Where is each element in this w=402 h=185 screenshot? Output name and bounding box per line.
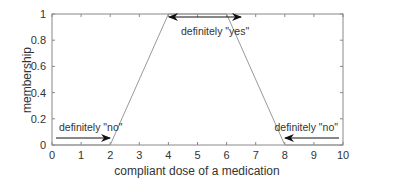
x-tick-label: 1 [78,149,84,161]
x-tick-label: 4 [165,149,171,161]
x-tick-label: 0 [49,149,55,161]
x-tick-label: 7 [253,149,259,161]
annotation-no-right: definitely "no" [275,121,339,133]
membership-chart: 012345678910 00.20.40.60.81 definitely "… [0,0,402,185]
x-tick-label: 2 [107,149,113,161]
y-axis-label: membership [20,47,34,113]
y-tick-label: 0.8 [31,34,46,46]
x-tick-label: 5 [194,149,200,161]
annotation-yes: definitely "yes" [181,25,249,37]
y-tick-label: 0 [40,139,46,151]
x-tick-label: 3 [136,149,142,161]
x-axis-label: compliant dose of a medication [114,164,279,178]
y-tick-label: 1 [40,8,46,20]
x-tick-label: 8 [282,149,288,161]
annotation-no-left: definitely "no" [59,121,123,133]
x-tick-label: 6 [224,149,230,161]
x-tick-label: 9 [311,149,317,161]
x-tick-label: 10 [337,149,349,161]
y-tick-label: 0.2 [31,113,46,125]
